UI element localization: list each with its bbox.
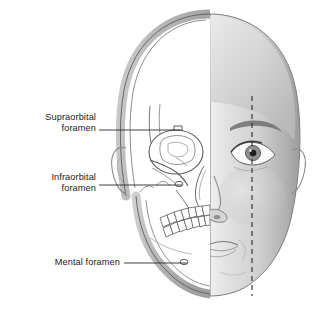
label-infraorbital-line1: Infraorbital: [51, 172, 96, 182]
label-infraorbital-line2: foramen: [4, 183, 96, 194]
skull-half: [112, 14, 210, 296]
label-supraorbital-line1: Supraorbital: [45, 112, 96, 122]
label-mental-foramen: Mental foramen: [4, 257, 120, 268]
face-half: [210, 14, 305, 296]
nostril: [214, 215, 221, 219]
label-supraorbital-foramen: Supraorbital foramen: [4, 112, 96, 134]
label-supraorbital-line2: foramen: [4, 123, 96, 134]
label-mental-line1: Mental foramen: [55, 257, 120, 267]
label-infraorbital-foramen: Infraorbital foramen: [4, 172, 96, 194]
mental-foramen-marker: [180, 259, 188, 264]
anatomy-figure: Supraorbital foramen Infraorbital forame…: [0, 0, 332, 314]
infraorbital-foramen-marker: [175, 181, 183, 186]
